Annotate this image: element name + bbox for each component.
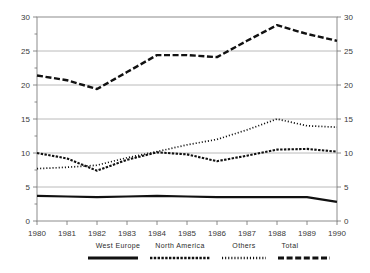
xtick-label-1980: 1980	[28, 229, 46, 238]
ytick-label-right-25: 25	[344, 47, 353, 56]
legend-label-total: Total	[282, 242, 299, 249]
ytick-label-right-0: 0	[344, 217, 349, 226]
xtick-label-1990: 1990	[328, 229, 346, 238]
ytick-label-left-5: 5	[26, 183, 31, 192]
xtick-label-1987: 1987	[238, 229, 256, 238]
ytick-label-left-25: 25	[21, 47, 30, 56]
series-line-total	[37, 25, 337, 89]
series-line-west-europe	[37, 196, 337, 202]
ytick-label-left-15: 15	[21, 115, 30, 124]
ytick-label-right-15: 15	[344, 115, 353, 124]
legend-label-others: Others	[232, 242, 256, 249]
ytick-label-right-30: 30	[344, 13, 353, 22]
xtick-label-1981: 1981	[58, 229, 76, 238]
xtick-label-1984: 1984	[148, 229, 166, 238]
legend-label-north-america: North America	[155, 242, 205, 249]
gridlines-group	[37, 51, 337, 187]
ytick-label-right-5: 5	[344, 183, 349, 192]
series-line-others	[37, 119, 337, 169]
ytick-label-right-20: 20	[344, 81, 353, 90]
legend: West EuropeNorth AmericaOthersTotal	[88, 242, 330, 258]
xtick-label-1986: 1986	[208, 229, 226, 238]
xtick-label-1989: 1989	[298, 229, 316, 238]
legend-label-west-europe: West Europe	[96, 242, 141, 250]
line-chart: 0055101015152020252530301980198119821983…	[0, 0, 370, 273]
ytick-label-right-10: 10	[344, 149, 353, 158]
tick-marks-group	[33, 17, 341, 225]
xtick-label-1983: 1983	[118, 229, 136, 238]
series-group	[37, 25, 337, 202]
series-line-north-america	[37, 149, 337, 171]
xtick-label-1988: 1988	[268, 229, 286, 238]
ytick-label-left-30: 30	[21, 13, 30, 22]
chart-container: 0055101015152020252530301980198119821983…	[0, 0, 370, 273]
ytick-label-left-20: 20	[21, 81, 30, 90]
xtick-label-1985: 1985	[178, 229, 196, 238]
ytick-label-left-10: 10	[21, 149, 30, 158]
ytick-label-left-0: 0	[26, 217, 31, 226]
xtick-label-1982: 1982	[88, 229, 106, 238]
